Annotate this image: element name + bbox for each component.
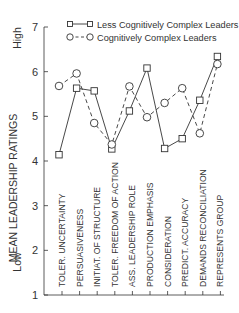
y-axis-title: MEAN LEADERSHIP RATINGS: [7, 114, 19, 262]
y-annotation-high: High: [11, 27, 23, 49]
square-marker: [126, 108, 132, 114]
square-marker: [179, 135, 185, 141]
y-tick-label: 7: [32, 21, 38, 33]
x-tick-label: REPRESENTS GROUP: [215, 195, 225, 287]
line-chart: 1234567 TOLER. UNCERTAINTYPERSUASIVENESS…: [0, 0, 239, 313]
circle-marker: [55, 82, 63, 90]
square-marker: [73, 85, 79, 91]
legend-circle-icon: [87, 34, 93, 40]
series-complex: [55, 60, 221, 148]
legend-square-icon: [88, 22, 93, 27]
x-tick-label: PRODUCTION EMPHASIS: [145, 182, 155, 287]
square-marker: [214, 53, 220, 59]
y-tick-label: 6: [32, 66, 38, 78]
x-tick-label: ASS. LEADERSHIP ROLE: [127, 185, 137, 287]
x-tick-label: CONSIDERATION: [163, 216, 173, 287]
circle-marker: [143, 113, 151, 121]
circle-marker: [126, 83, 134, 91]
x-tick-label: DEMANDS RECONCILIATION: [198, 169, 208, 287]
x-axis: TOLER. UNCERTAINTYPERSUASIVENESSINITIAT.…: [44, 162, 225, 295]
y-tick-label: 4: [32, 155, 38, 167]
square-marker: [91, 88, 97, 94]
legend-label: Cognitively Complex Leaders: [97, 33, 217, 43]
circle-marker: [196, 130, 204, 138]
y-annotation-low: Low: [11, 252, 23, 272]
series-less-complex: [56, 53, 221, 158]
y-tick-label: 1: [32, 289, 38, 301]
circle-marker: [178, 84, 186, 92]
x-tick-label: PERSUASIVENESS: [75, 208, 85, 287]
y-tick-label: 2: [32, 244, 38, 256]
y-tick-label: 5: [32, 110, 38, 122]
x-tick-label: PREDICT. ACCURACY: [180, 197, 190, 287]
x-tick-label: TOLER. UNCERTAINTY: [57, 193, 67, 287]
square-marker: [197, 97, 203, 103]
legend-label: Less Cognitively Complex Leaders: [97, 20, 239, 30]
square-marker: [144, 65, 150, 71]
legend: Less Cognitively Complex LeadersCognitiv…: [67, 20, 239, 43]
x-tick-label: INITIAT. OF STRUCTURE: [92, 187, 102, 287]
square-marker: [56, 152, 62, 158]
circle-marker: [214, 60, 222, 68]
series-layer: [55, 53, 221, 158]
circle-marker: [73, 70, 81, 78]
legend-square-icon: [68, 22, 73, 27]
square-marker: [161, 145, 167, 151]
circle-marker: [90, 119, 98, 127]
x-tick-label: TOLER. FREEDOM OF ACTION: [110, 162, 120, 287]
circle-marker: [161, 99, 169, 107]
y-tick-label: 3: [32, 200, 38, 212]
circle-marker: [108, 141, 116, 149]
legend-circle-icon: [67, 34, 73, 40]
y-axis: 1234567: [32, 21, 48, 301]
